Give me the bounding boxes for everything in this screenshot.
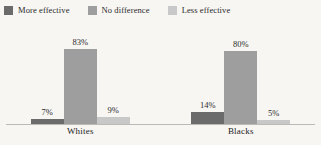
legend-swatch-less-effective [168, 6, 177, 15]
bar-value-blacks-no-difference: 80% [233, 40, 249, 49]
x-axis-baseline [6, 124, 315, 125]
bar-slot-blacks-no-difference: 80% [224, 20, 257, 125]
chart-plot-area: 7% 83% 9% 14% 80% 5% [0, 20, 321, 125]
legend-swatch-more-effective [4, 6, 13, 15]
bar-value-blacks-more-effective: 14% [200, 101, 216, 110]
bar-slot-blacks-less-effective: 5% [257, 20, 290, 125]
bar-value-whites-less-effective: 9% [108, 106, 119, 115]
category-labels: Whites Blacks [0, 126, 321, 145]
legend-label-more-effective: More effective [18, 5, 70, 15]
legend-item-less-effective: Less effective [168, 5, 231, 15]
bar-slot-whites-less-effective: 9% [97, 20, 130, 125]
bar-value-blacks-less-effective: 5% [268, 109, 279, 118]
category-label-whites: Whites [31, 126, 130, 136]
category-label-blacks: Blacks [191, 126, 290, 136]
legend-swatch-no-difference [88, 6, 97, 15]
bar-group-blacks: 14% 80% 5% [191, 20, 290, 125]
bar-slot-blacks-more-effective: 14% [191, 20, 224, 125]
bar-whites-no-difference [64, 49, 97, 125]
bar-slot-whites-more-effective: 7% [31, 20, 64, 125]
bar-groups: 7% 83% 9% 14% 80% 5% [0, 20, 321, 125]
legend-label-no-difference: No difference [102, 5, 150, 15]
bar-slot-whites-no-difference: 83% [64, 20, 97, 125]
legend-item-more-effective: More effective [4, 5, 70, 15]
legend-item-no-difference: No difference [88, 5, 150, 15]
chart-legend: More effective No difference Less effect… [0, 0, 321, 20]
bar-value-whites-more-effective: 7% [42, 108, 53, 117]
bar-group-whites: 7% 83% 9% [31, 20, 130, 125]
bar-blacks-no-difference [224, 51, 257, 125]
legend-label-less-effective: Less effective [182, 5, 231, 15]
bar-value-whites-no-difference: 83% [72, 38, 88, 47]
